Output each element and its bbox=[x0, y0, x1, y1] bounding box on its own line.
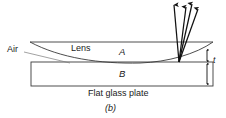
surface-b-label: B bbox=[119, 69, 125, 79]
lens-label: Lens bbox=[71, 44, 91, 53]
figure-caption: (b) bbox=[105, 104, 116, 113]
gap-thickness-label: t bbox=[213, 56, 215, 65]
flat-glass-plate-label: Flat glass plate bbox=[88, 89, 149, 98]
incident-ray-arrow-icon bbox=[174, 5, 179, 62]
figure-drawing-canvas bbox=[0, 0, 226, 118]
air-leader-line-icon bbox=[24, 52, 70, 63]
surface-a-label: A bbox=[119, 47, 125, 57]
newtons-rings-figure: Air Lens A B t Flat glass plate (b) bbox=[0, 0, 226, 118]
air-label: Air bbox=[7, 45, 18, 54]
